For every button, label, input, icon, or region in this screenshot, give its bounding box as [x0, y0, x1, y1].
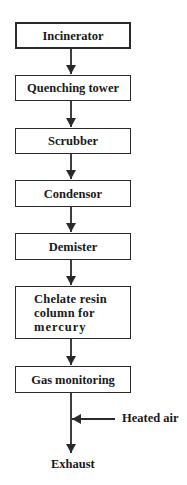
step-label: Quenching tower — [27, 81, 119, 95]
step-demister: Demister — [15, 233, 131, 260]
step-condensor: Condensor — [15, 180, 131, 207]
step-incinerator: Incinerator — [15, 22, 131, 49]
step-chelate-resin-column: Chelate resin column for mercury — [15, 286, 131, 339]
heated-air-label: Heated air — [122, 411, 179, 426]
step-label: Demister — [49, 240, 98, 254]
step-label: Scrubber — [48, 134, 98, 148]
step-gas-monitoring: Gas monitoring — [15, 366, 131, 393]
step-label-line-1: Chelate resin — [34, 292, 107, 306]
step-quenching-tower: Quenching tower — [15, 75, 131, 101]
step-label: Incinerator — [42, 29, 103, 43]
step-label: Gas monitoring — [31, 373, 115, 387]
step-label-line-2: column for — [34, 306, 95, 320]
step-scrubber: Scrubber — [15, 128, 131, 154]
step-label-line-3: mercury — [34, 320, 87, 334]
exhaust-label: Exhaust — [51, 457, 95, 472]
step-label: Condensor — [44, 187, 102, 201]
